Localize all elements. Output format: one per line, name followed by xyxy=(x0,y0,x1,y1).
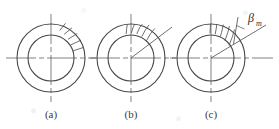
panel-c-angle-arc xyxy=(237,26,245,30)
panel-c-angle-label: β xyxy=(247,11,254,25)
panel-c-lead-line xyxy=(211,25,266,58)
panel-b: (b) xyxy=(90,14,176,121)
panel-c: β m (c) xyxy=(170,11,273,121)
panel-a-caption: (a) xyxy=(45,108,58,121)
bearing-groove-pattern-figure: (a) (b) xyxy=(0,0,279,129)
panel-c-angle-label-subscript: m xyxy=(256,19,262,28)
panel-b-curved-grooves xyxy=(126,24,155,41)
panel-a: (a) xyxy=(6,14,96,121)
panel-b-caption: (b) xyxy=(125,108,138,121)
panel-c-caption: (c) xyxy=(205,108,218,121)
